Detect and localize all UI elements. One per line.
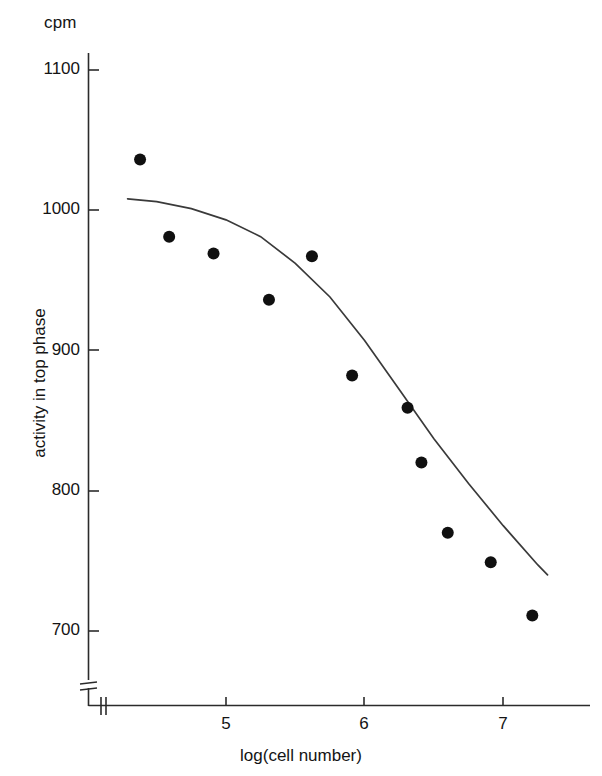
x-tick-label-7: 7	[488, 714, 518, 734]
y-tick-label-900: 900	[20, 340, 80, 360]
y-tick-label-700: 700	[20, 620, 80, 640]
data-point	[526, 609, 538, 621]
data-point	[306, 250, 318, 262]
chart-figure: cpm activity in top phase log(cell numbe…	[0, 0, 602, 776]
plot-area	[0, 0, 602, 776]
data-point	[415, 457, 427, 469]
data-point	[346, 370, 358, 382]
x-tick-label-6: 6	[349, 714, 379, 734]
x-axis	[89, 697, 591, 715]
x-tick-label-5: 5	[211, 714, 241, 734]
y-axis-unit-label: cpm	[44, 13, 77, 33]
y-axis-break-icon	[80, 682, 97, 706]
fit-curve	[128, 199, 548, 575]
data-point	[163, 231, 175, 243]
data-point	[402, 402, 414, 414]
y-axis	[89, 53, 100, 680]
data-point	[442, 527, 454, 539]
x-axis-title: log(cell number)	[0, 746, 602, 766]
y-tick-label-1000: 1000	[20, 199, 80, 219]
data-point	[263, 294, 275, 306]
data-point-group	[134, 153, 538, 621]
data-point	[485, 556, 497, 568]
y-tick-label-1100: 1100	[20, 59, 80, 79]
y-axis-title: activity in top phase	[30, 273, 50, 493]
data-point	[134, 153, 146, 165]
y-tick-label-800: 800	[20, 480, 80, 500]
data-point	[208, 247, 220, 259]
